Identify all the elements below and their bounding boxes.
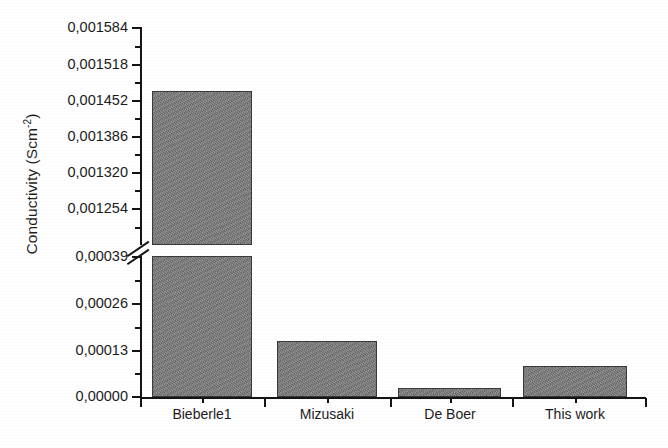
y-axis-title-exponent: -2 <box>22 119 33 128</box>
bar-this-work <box>523 366 627 397</box>
y-tick-minor-u4 <box>135 82 141 84</box>
x-tick-label-this-work: This work <box>515 406 635 422</box>
y-tick-major-0001584 <box>132 27 141 29</box>
y-tick-minor-l3 <box>135 280 141 282</box>
y-tick-major-0001386 <box>132 136 141 138</box>
bar-de-boer <box>398 388 501 397</box>
x-tick-center-de-boer <box>450 398 452 403</box>
y-tick-minor-u5 <box>135 46 141 48</box>
y-tick-major-000039 <box>132 256 141 258</box>
y-tick-minor-u0 <box>135 227 141 229</box>
y-tick-major-0001518 <box>132 64 141 66</box>
y-tick-label-0001584: 0,001584 <box>8 20 128 35</box>
bar-bieberle1-upper <box>152 91 252 245</box>
y-tick-major-0001320 <box>132 172 141 174</box>
y-tick-label-000000: 0,00000 <box>8 389 128 404</box>
y-tick-minor-u2 <box>135 154 141 156</box>
y-tick-minor-u3 <box>135 118 141 120</box>
y-tick-label-000026: 0,00026 <box>8 296 128 311</box>
y-axis-title-suffix: ) <box>23 114 40 119</box>
x-tick-center-this-work <box>575 398 577 403</box>
y-tick-minor-l1 <box>135 373 141 375</box>
y-tick-label-0001386: 0,001386 <box>8 129 128 144</box>
y-tick-major-000013 <box>132 350 141 352</box>
y-tick-minor-u1 <box>135 190 141 192</box>
bar-bieberle1-lower <box>152 256 252 397</box>
x-tick-label-de-boer: De Boer <box>390 406 510 422</box>
y-tick-label-000013: 0,00013 <box>8 343 128 358</box>
y-tick-label-0001320: 0,001320 <box>8 165 128 180</box>
x-tick-boundary-1 <box>264 398 266 407</box>
y-tick-major-0001452 <box>132 100 141 102</box>
bar-mizusaki <box>277 341 377 397</box>
y-tick-major-000026 <box>132 303 141 305</box>
x-tick-edge-right <box>645 398 647 407</box>
x-axis-line <box>140 397 646 399</box>
y-tick-label-0001452: 0,001452 <box>8 93 128 108</box>
y-tick-label-0001254: 0,001254 <box>8 201 128 216</box>
x-tick-center-bieberle1 <box>202 398 204 403</box>
y-tick-major-0001254 <box>132 208 141 210</box>
x-tick-center-mizusaki <box>327 398 329 403</box>
y-axis-title-text: Conductivity (Scm <box>23 128 40 255</box>
x-tick-label-mizusaki: Mizusaki <box>267 406 387 422</box>
y-tick-label-000039: 0,00039 <box>8 249 128 264</box>
x-tick-label-bieberle1: Bieberle1 <box>142 406 262 422</box>
y-tick-label-0001518: 0,001518 <box>8 57 128 72</box>
y-tick-minor-l2 <box>135 327 141 329</box>
x-tick-boundary-3 <box>512 398 514 407</box>
bar-chart-figure: Conductivity (Scm-2) 0,001584 0,001518 0… <box>0 0 668 448</box>
